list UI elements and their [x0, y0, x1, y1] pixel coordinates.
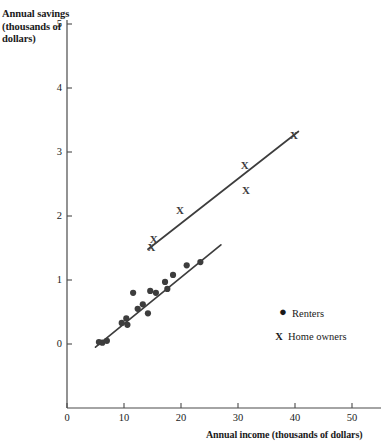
data-point-home-owner: X [290, 129, 298, 141]
data-point-renter [119, 320, 125, 326]
data-point-renter [153, 290, 159, 296]
data-point-home-owner: X [150, 233, 158, 245]
y-axis-ticks [67, 24, 72, 344]
data-point-renter [170, 272, 176, 278]
data-point-renter [124, 322, 130, 328]
data-point-renter [147, 288, 153, 294]
data-point-renter [197, 259, 203, 265]
data-point-home-owner: X [242, 184, 250, 196]
scatter-chart: Annual savings (thousands of dollars) An… [0, 0, 389, 448]
data-point-home-owner: X [176, 204, 184, 216]
regression-lines [96, 132, 299, 348]
axes [67, 20, 381, 408]
data-point-renter [135, 306, 141, 312]
data-point-renter [130, 290, 136, 296]
x-axis-ticks [67, 403, 352, 408]
data-point-renter [145, 310, 151, 316]
data-point-renter [162, 279, 168, 285]
regression-line-home-owners [148, 132, 298, 250]
data-point-renter [123, 315, 129, 321]
data-point-renter [140, 301, 146, 307]
data-point-home-owner: X [241, 159, 249, 171]
data-point-renter [104, 338, 110, 344]
data-point-renter [164, 286, 170, 292]
plot-area: XXXXXX [0, 0, 389, 448]
data-point-renter [184, 262, 190, 268]
